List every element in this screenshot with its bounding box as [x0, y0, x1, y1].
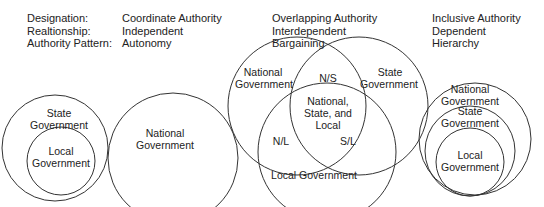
- coordinate-authority-diagram: State Government Local Government Nation…: [2, 93, 238, 207]
- ns-overlap-label: N/S: [319, 72, 337, 84]
- local-label-1: Local: [48, 145, 73, 157]
- center-label-2: State, and: [304, 107, 352, 119]
- local-label-1: Local: [457, 149, 482, 161]
- center-label-3: Local: [315, 119, 340, 131]
- local-label-2: Government: [441, 161, 499, 173]
- national-label-1: National: [146, 127, 185, 139]
- center-label-1: National,: [307, 95, 348, 107]
- federalism-diagram: State Government Local Government Nation…: [0, 0, 544, 207]
- nl-overlap-label: N/L: [273, 135, 290, 147]
- state-label-2: Government: [30, 119, 88, 131]
- overlapping-authority-diagram: National Government State Government N/S…: [228, 37, 428, 207]
- state-label-1: State: [47, 107, 72, 119]
- national-label-1: National: [244, 66, 283, 78]
- inclusive-authority-diagram: National Government State Government Loc…: [419, 83, 531, 196]
- state-label-2: Government: [441, 117, 499, 129]
- sl-overlap-label: S/L: [340, 135, 356, 147]
- local-label-2: Government: [32, 157, 90, 169]
- national-label-1: National: [451, 83, 490, 95]
- state-label-1: State: [378, 66, 403, 78]
- state-label-1: State: [458, 105, 483, 117]
- national-label-2: Government: [136, 139, 194, 151]
- local-label: Local Government: [271, 169, 357, 181]
- state-label-2: Government: [360, 78, 418, 90]
- national-label-2: Government: [235, 78, 293, 90]
